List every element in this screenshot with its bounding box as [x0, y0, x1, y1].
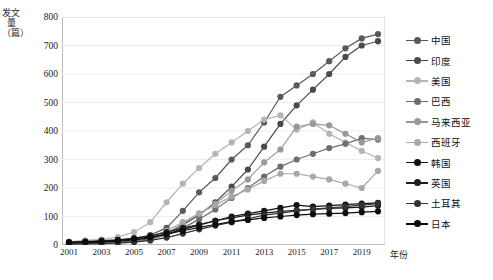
data-point: [98, 238, 104, 244]
legend-marker-icon: [406, 76, 428, 86]
x-axis-title: 年份: [390, 248, 408, 261]
data-point: [359, 42, 365, 48]
data-point: [147, 219, 153, 225]
data-point: [196, 165, 202, 171]
data-point: [196, 211, 202, 217]
y-tick-label: 200: [22, 183, 58, 193]
data-point: [359, 202, 365, 208]
data-point: [310, 174, 316, 180]
legend-label: 巴西: [431, 94, 451, 108]
data-point: [342, 203, 348, 209]
data-point: [342, 131, 348, 137]
data-point: [196, 189, 202, 195]
data-point: [359, 209, 365, 215]
data-point: [359, 35, 365, 41]
legend-label: 中国: [431, 33, 451, 47]
legend-item[interactable]: 日本: [406, 214, 492, 234]
data-point: [180, 219, 186, 225]
data-point: [310, 211, 316, 217]
legend-marker-icon: [406, 219, 428, 229]
legend-marker-icon: [406, 158, 428, 168]
data-point: [277, 213, 283, 219]
data-point: [294, 124, 300, 130]
data-point: [261, 215, 267, 221]
legend-label: 英国: [431, 176, 451, 190]
y-tick-label: 500: [22, 98, 58, 108]
legend-marker-icon: [406, 117, 428, 127]
y-tick-label: 0: [22, 240, 58, 250]
data-point: [163, 231, 169, 237]
data-point: [310, 87, 316, 93]
legend-item[interactable]: 西班牙: [406, 132, 492, 152]
data-point: [229, 139, 235, 145]
data-point: [375, 38, 381, 44]
data-point: [229, 219, 235, 225]
data-point: [245, 166, 251, 172]
data-point: [294, 102, 300, 108]
data-point: [294, 156, 300, 162]
data-point: [342, 181, 348, 187]
series-line: [69, 124, 378, 245]
legend-item[interactable]: 中国: [406, 30, 492, 50]
data-point: [294, 82, 300, 88]
data-point: [131, 236, 137, 242]
series-line: [69, 138, 378, 244]
y-tick-label: 800: [22, 12, 58, 22]
legend-marker-icon: [406, 35, 428, 45]
data-point: [245, 142, 251, 148]
y-axis-tick-labels: 8007006005004003002001000: [22, 0, 58, 280]
legend-item[interactable]: 印度: [406, 50, 492, 70]
data-point: [326, 176, 332, 182]
data-point: [310, 151, 316, 157]
x-tick-label: 2009: [190, 247, 208, 257]
legend-label: 西班牙: [431, 135, 461, 149]
data-point: [261, 117, 267, 123]
data-point: [245, 128, 251, 134]
data-point: [375, 201, 381, 207]
data-point: [326, 145, 332, 151]
data-point: [212, 151, 218, 157]
y-tick-label: 600: [22, 69, 58, 79]
data-point: [229, 193, 235, 199]
legend-item[interactable]: 土耳其: [406, 193, 492, 213]
x-tick-label: 2007: [158, 247, 176, 257]
x-tick-label: 2019: [353, 247, 371, 257]
series-5: [66, 121, 381, 245]
data-point: [277, 171, 283, 177]
data-point: [277, 94, 283, 100]
legend-label: 马来西亚: [431, 115, 471, 129]
legend: 中国印度美国巴西马来西亚西班牙韩国英国土耳其日本: [406, 30, 492, 234]
data-point: [180, 181, 186, 187]
series-6: [66, 168, 381, 245]
legend-item[interactable]: 英国: [406, 173, 492, 193]
legend-label: 土耳其: [431, 196, 461, 210]
data-point: [342, 45, 348, 51]
data-point: [115, 237, 121, 243]
legend-label: 日本: [431, 217, 451, 231]
series-line: [69, 34, 378, 243]
data-point: [375, 168, 381, 174]
data-point: [375, 31, 381, 37]
x-tick-label: 2013: [255, 247, 273, 257]
data-point: [326, 122, 332, 128]
legend-item[interactable]: 马来西亚: [406, 112, 492, 132]
data-point: [277, 146, 283, 152]
data-point: [375, 208, 381, 214]
legend-item[interactable]: 韩国: [406, 152, 492, 172]
legend-item[interactable]: 巴西: [406, 91, 492, 111]
data-point: [359, 148, 365, 154]
data-point: [326, 205, 332, 211]
series-4: [66, 135, 381, 245]
legend-label: 美国: [431, 74, 451, 88]
data-point: [229, 188, 235, 194]
data-point: [245, 217, 251, 223]
data-point: [359, 185, 365, 191]
data-point: [245, 186, 251, 192]
data-point: [326, 211, 332, 217]
x-tick-label: 2015: [288, 247, 306, 257]
legend-item[interactable]: 美国: [406, 71, 492, 91]
data-point: [326, 71, 332, 77]
x-axis-tick-labels: 2001200320052007200920112013201520172019: [62, 247, 385, 265]
y-tick-label: 300: [22, 155, 58, 165]
legend-marker-icon: [406, 198, 428, 208]
